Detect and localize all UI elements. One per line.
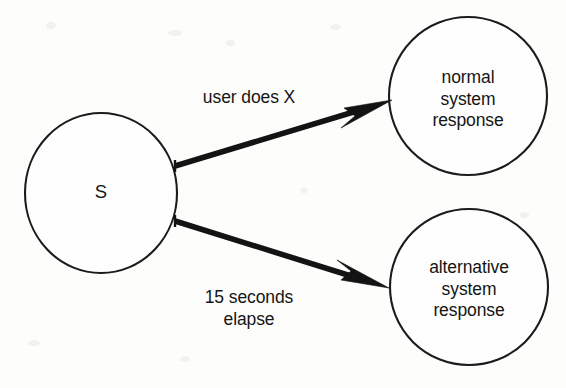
edge-label-timeout: 15 seconds elapse	[205, 287, 294, 330]
transition-arrow-timeout[interactable]	[175, 215, 389, 288]
transition-arrow-user-does-x[interactable]	[175, 100, 392, 172]
normal-response-label: normal system response	[432, 67, 503, 132]
diagram-graphics	[0, 0, 566, 388]
arrow-shaft-lower	[175, 221, 367, 281]
arrow-shaft-upper	[175, 107, 370, 166]
alternative-response-label: alternative system response	[429, 257, 509, 322]
edge-label-user-does-x: user does X	[203, 87, 295, 109]
start-state-label: S	[95, 181, 108, 203]
diagram-canvas: S normal system response alternative sys…	[0, 0, 566, 388]
